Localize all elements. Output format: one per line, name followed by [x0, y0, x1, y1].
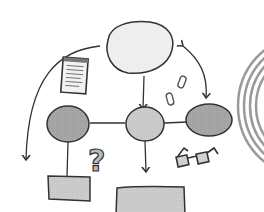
left-node: [47, 106, 89, 142]
arrow-center-to-leaf: [145, 141, 146, 172]
right-node: [186, 104, 232, 136]
left-leaf-node: [48, 176, 90, 201]
paperclip-icon: [166, 75, 187, 105]
question-mark-icon: ?: [88, 143, 105, 178]
center-node: [126, 107, 164, 141]
root-node: [107, 22, 173, 74]
line-center-right: [164, 122, 188, 123]
spiral-icon: [238, 38, 264, 174]
double-arrow-right: [183, 46, 206, 98]
center-leaf-node: [116, 186, 185, 212]
arrow-root-to-center: [143, 76, 144, 109]
line-left-to-leaf: [67, 142, 68, 176]
mind-map-sketch: ?: [0, 0, 264, 212]
notepad-icon: [61, 57, 88, 94]
glasses-icon: [176, 148, 218, 167]
